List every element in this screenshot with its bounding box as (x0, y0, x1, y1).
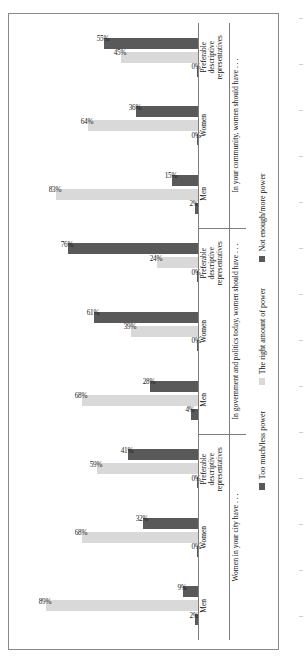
bar-item[interactable]: 68% (12, 395, 198, 406)
scan-tick (299, 432, 303, 433)
scan-tick (299, 202, 303, 203)
plot-area: 2%89%9%0%68%32%0%59%41%4%68%28%0%39%61%0… (12, 23, 198, 640)
bar-value-label: 32% (136, 515, 149, 523)
bar-item[interactable]: 39% (12, 326, 198, 337)
bar-value-label: 4% (186, 406, 195, 414)
bar[interactable] (104, 38, 198, 49)
axis-category-row: MenWomenPreferabledescriptiverepresentat… (199, 23, 229, 228)
bar-value-label: 36% (129, 104, 142, 112)
bar-item[interactable]: 0% (12, 271, 198, 282)
legend-item[interactable]: Too much/less power (258, 411, 267, 490)
bar-item[interactable]: 9% (12, 586, 198, 597)
bar-item[interactable]: 45% (12, 52, 198, 63)
bar-value-label: 2% (189, 612, 198, 620)
bar-value-label: 45% (114, 49, 127, 57)
bar-item[interactable]: 4% (12, 409, 198, 420)
bar-item[interactable]: 55% (12, 38, 198, 49)
legend-label: The right amount of power (258, 288, 267, 374)
bar-item[interactable]: 61% (12, 312, 198, 323)
category-axis: MenWomenPreferabledescriptiverepresentat… (198, 23, 246, 640)
scan-tick (299, 478, 303, 479)
bar-item[interactable]: 2% (12, 614, 198, 625)
bar[interactable] (143, 518, 198, 529)
bar[interactable] (68, 243, 198, 254)
bar[interactable] (56, 189, 198, 200)
bar-item[interactable]: 0% (12, 66, 198, 77)
scan-tick (299, 294, 303, 295)
axis-category-row: MenWomenPreferabledescriptiverepresentat… (199, 435, 229, 640)
bar-item[interactable]: 89% (12, 600, 198, 611)
scan-tick (299, 64, 303, 65)
bar-item[interactable]: 0% (12, 340, 198, 351)
scan-tick (299, 248, 303, 249)
scan-tick (299, 110, 303, 111)
axis-category-label: Preferabledescriptiverepresentatives (199, 23, 229, 91)
scan-tick (299, 524, 303, 525)
bar-item[interactable]: 0% (12, 477, 198, 488)
bar-item[interactable]: 36% (12, 106, 198, 117)
bar-item[interactable]: 2% (12, 203, 198, 214)
bar-value-label: 24% (150, 255, 163, 263)
scan-tick (299, 386, 303, 387)
bar-item[interactable]: 68% (12, 532, 198, 543)
scan-tick (299, 616, 303, 617)
bar[interactable] (82, 532, 198, 543)
bar-value-label: 76% (61, 241, 74, 249)
axis-category-label: Men (199, 160, 229, 228)
legend-item[interactable]: The right amount of power (258, 288, 267, 385)
bar-category: 4%68%28% (12, 366, 198, 435)
axis-category-label: Men (199, 572, 229, 640)
chart-area: 2%89%9%0%68%32%0%59%41%4%68%28%0%39%61%0… (8, 13, 279, 650)
bar-item[interactable]: 24% (12, 257, 198, 268)
axis-group: MenWomenPreferabledescriptiverepresentat… (199, 434, 246, 640)
bar-category: 0%59%41% (12, 434, 198, 503)
bar[interactable] (128, 449, 198, 460)
bar-item[interactable]: 76% (12, 243, 198, 254)
bar-item[interactable]: 59% (12, 463, 198, 474)
legend-label: Too much/less power (258, 411, 267, 479)
bar[interactable] (94, 312, 198, 323)
bar[interactable] (157, 257, 198, 268)
scan-tick (299, 570, 303, 571)
bar[interactable] (136, 106, 198, 117)
scan-edge-ticks (299, 18, 303, 648)
scan-tick (299, 340, 303, 341)
bar-item[interactable]: 0% (12, 546, 198, 557)
bar[interactable] (121, 52, 198, 63)
bar-value-label: 64% (81, 118, 94, 126)
bar[interactable] (88, 120, 198, 131)
axis-group: MenWomenPreferabledescriptiverepresentat… (199, 23, 246, 228)
bar-item[interactable]: 32% (12, 518, 198, 529)
bar[interactable] (150, 381, 198, 392)
legend-item[interactable]: Not enough/more power (258, 173, 267, 262)
bar-item[interactable]: 15% (12, 175, 198, 186)
axis-category-label: Women (199, 91, 229, 159)
axis-category-label: Women (199, 297, 229, 365)
bar-item[interactable]: 83% (12, 189, 198, 200)
legend-swatch-icon (259, 483, 266, 490)
bar-value-label: 55% (97, 35, 110, 43)
bar-item[interactable]: 64% (12, 120, 198, 131)
bar-category: 0%68%32% (12, 503, 198, 572)
bar-value-label: 61% (86, 309, 99, 317)
bar-category: 2%83%15% (12, 160, 198, 229)
axis-category-label: Preferabledescriptiverepresentatives (199, 229, 229, 297)
bar[interactable] (82, 395, 198, 406)
scan-tick (299, 18, 303, 19)
bar-item[interactable]: 0% (12, 134, 198, 145)
bar[interactable] (131, 326, 198, 337)
axis-question-label: In government and politics today, women … (229, 229, 246, 434)
axis-category-label: Women (199, 503, 229, 571)
bar-group: 2%83%15%0%64%36%0%45%55% (12, 23, 198, 229)
bar-category: 0%24%76% (12, 229, 198, 298)
bar-item[interactable]: 28% (12, 381, 198, 392)
legend-swatch-icon (259, 256, 266, 263)
bar-category: 2%89%9% (12, 571, 198, 640)
bar-value-label: 68% (74, 529, 87, 537)
bar-category: 0%39%61% (12, 297, 198, 366)
bar[interactable] (46, 600, 198, 611)
bar-item[interactable]: 41% (12, 449, 198, 460)
bar-value-label: 28% (143, 378, 156, 386)
bar-value-label: 83% (49, 186, 62, 194)
bar[interactable] (97, 463, 198, 474)
